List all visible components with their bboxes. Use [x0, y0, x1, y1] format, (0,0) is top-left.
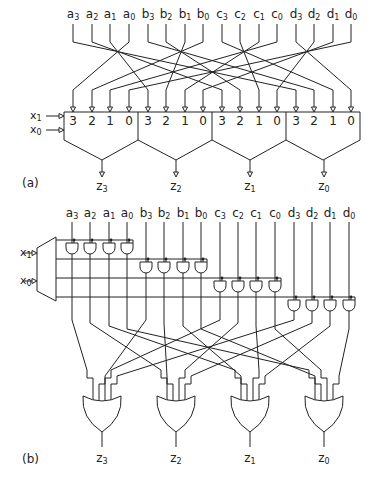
and-gate [324, 300, 336, 311]
crossbar-wire [127, 254, 315, 400]
mux-port-label: 1 [329, 114, 337, 128]
output-arrow-icon [100, 172, 105, 177]
output-arrow-icon [248, 172, 253, 177]
label-subscript: 3 [147, 212, 152, 221]
mux-port-label: 2 [236, 114, 244, 128]
input-label-b2: b2 [160, 8, 173, 24]
label-subscript: 1 [111, 13, 116, 22]
output-label-z2: z2 [170, 180, 181, 196]
part-b-label: (b) [22, 452, 39, 466]
and-gate [195, 262, 207, 273]
label-subscript: 3 [297, 13, 302, 22]
label-subscript: 0 [276, 212, 281, 221]
mux-port-label: 0 [273, 114, 281, 128]
and-gate [214, 281, 226, 292]
crossbar-wire [185, 311, 312, 400]
input-arrow-icon [257, 107, 262, 112]
and-gate [306, 300, 318, 311]
or-gate [231, 396, 269, 432]
decoder-outline [37, 237, 56, 301]
output-label-z0: z0 [318, 452, 329, 468]
label-subscript: 2 [165, 212, 170, 221]
label-letter: d [324, 206, 332, 220]
label-subscript: 2 [91, 212, 96, 221]
input-label-c2: c2 [234, 8, 246, 24]
mux-port-label: 1 [181, 114, 189, 128]
label-letter: b [158, 206, 166, 220]
label-subscript: 3 [221, 212, 226, 221]
crossbar-wire [333, 311, 349, 400]
label-letter: d [290, 7, 298, 21]
and-gate [158, 262, 170, 273]
and-gate [121, 243, 133, 254]
and-gate [288, 300, 300, 311]
input-label-a0: a0 [123, 8, 135, 24]
output-label-z3: z3 [96, 180, 107, 196]
label-subscript: 1 [251, 457, 256, 466]
label-letter: b [140, 206, 148, 220]
label-subscript: 0 [202, 212, 207, 221]
part-a-select-x0: x0 [30, 124, 42, 139]
input-label-a1: a1 [103, 207, 115, 223]
part-b-select-x0: x0 [20, 275, 32, 290]
input-wire [110, 24, 277, 107]
input-label-a2: a2 [84, 207, 96, 223]
label-subscript: 1 [186, 13, 191, 22]
select-arrow-icon [59, 114, 64, 119]
label-subscript: 3 [103, 185, 108, 194]
label-letter: b [142, 7, 150, 21]
label-subscript: 2 [177, 185, 182, 194]
label-subscript: 2 [93, 13, 98, 22]
label-subscript: 2 [177, 457, 182, 466]
or-gate [305, 396, 343, 432]
label-subscript: 1 [331, 212, 336, 221]
label-subscript: 2 [239, 212, 244, 221]
input-arrow-icon [201, 107, 206, 112]
circuit-diagram [0, 0, 373, 479]
mux-port-label: 3 [292, 114, 300, 128]
crossbar-wire [109, 254, 241, 400]
label-subscript: 1 [257, 212, 262, 221]
label-subscript: 0 [325, 457, 330, 466]
input-label-d1: d1 [324, 207, 337, 223]
input-arrow-icon [349, 107, 354, 112]
input-label-c1: c1 [250, 207, 262, 223]
input-arrow-icon [127, 107, 132, 112]
label-subscript: 0 [350, 212, 355, 221]
label-letter: b [179, 7, 187, 21]
input-label-a2: a2 [86, 8, 98, 24]
input-arrow-icon [312, 107, 317, 112]
label-letter: d [288, 206, 296, 220]
label-subscript: 0 [130, 13, 135, 22]
input-label-c0: c0 [271, 8, 283, 24]
label-letter: b [197, 7, 205, 21]
label-subscript: 0 [128, 212, 133, 221]
input-arrow-icon [164, 107, 169, 112]
and-gate [343, 300, 355, 311]
input-label-a1: a1 [104, 8, 116, 24]
mux-port-label: 3 [69, 114, 77, 128]
mux-port-label: 0 [199, 114, 207, 128]
mux-port-label: 2 [310, 114, 318, 128]
label-subscript: 2 [315, 13, 320, 22]
input-arrow-icon [71, 107, 76, 112]
input-wire [148, 24, 314, 107]
label-letter: d [306, 206, 314, 220]
output-label-z1: z1 [244, 452, 255, 468]
label-letter: b [195, 206, 203, 220]
multiplexer-figure: a3a2a1a0b3b2b1b0c3c2c1c0d3d2d1d0 3210321… [0, 0, 373, 479]
label-subscript: 0 [325, 185, 330, 194]
label-letter: b [177, 206, 185, 220]
and-gate [140, 262, 152, 273]
input-label-d3: d3 [288, 207, 301, 223]
input-label-a0: a0 [121, 207, 133, 223]
and-gate [66, 243, 78, 254]
input-label-b1: b1 [177, 207, 190, 223]
and-gate [103, 243, 115, 254]
input-label-d2: d2 [308, 8, 321, 24]
label-subscript: 2 [167, 13, 172, 22]
output-label-z2: z2 [170, 452, 181, 468]
mux-port-label: 3 [144, 114, 152, 128]
input-label-b0: b0 [195, 207, 208, 223]
input-label-d2: d2 [306, 207, 319, 223]
